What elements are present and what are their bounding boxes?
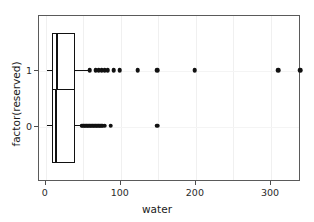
x-axis-tick [195,181,196,185]
boxplot-figure: factor(reserved) water 100100200300 [0,0,314,222]
outlier-point [155,123,160,128]
x-axis-tick [120,181,121,185]
x-axis-tick-label: 100 [111,187,129,198]
median-line [55,89,57,163]
y-axis-tick [34,126,38,127]
outlier-point [109,123,114,128]
outlier-point [103,123,108,128]
y-axis-tick-label: 0 [18,120,32,131]
x-axis-tick-label: 300 [261,187,279,198]
x-axis-tick [45,181,46,185]
x-axis-tick [270,181,271,185]
x-axis-tick-label: 0 [42,187,48,198]
x-axis-tick-label: 200 [186,187,204,198]
